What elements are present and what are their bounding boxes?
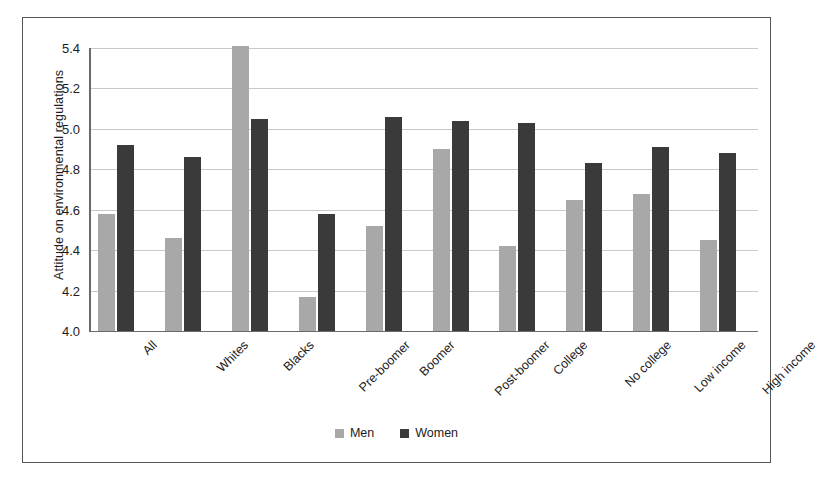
y-axis-tick-label: 5.4 xyxy=(62,41,80,56)
y-axis-tick-label: 4.2 xyxy=(62,283,80,298)
chart-legend: MenWomen xyxy=(23,426,770,440)
x-axis-category-label: No college xyxy=(622,338,674,390)
bar-men[interactable] xyxy=(98,214,115,331)
y-axis-tick-label: 4.8 xyxy=(62,162,80,177)
x-axis-category-label: All xyxy=(141,338,161,358)
y-axis-tick-label: 4.6 xyxy=(62,202,80,217)
bar-group: Blacks xyxy=(223,48,290,331)
bar-group: High income xyxy=(691,48,758,331)
bar-women[interactable] xyxy=(318,214,335,331)
bar-group: College xyxy=(490,48,557,331)
bar-group: Whites xyxy=(156,48,223,331)
x-axis-category-label: Boomer xyxy=(417,338,458,379)
bar-men[interactable] xyxy=(232,46,249,331)
legend-swatch-icon xyxy=(335,429,344,438)
bar-men[interactable] xyxy=(433,149,450,331)
x-axis-category-label: Post-boomer xyxy=(492,338,553,399)
plot-area: 5.45.25.04.84.64.44.24.0 AllWhitesBlacks… xyxy=(89,48,758,331)
bar-women[interactable] xyxy=(719,153,736,331)
chart-figure: Attitude on environmental regulations 5.… xyxy=(22,17,771,463)
bar-group: No college xyxy=(557,48,624,331)
x-axis-category-label: Pre-boomer xyxy=(356,338,413,395)
bar-group: Pre-boomer xyxy=(290,48,357,331)
y-axis-tick-label: 4.4 xyxy=(62,243,80,258)
x-axis-category-label: Whites xyxy=(215,338,252,375)
y-axis-tick-label: 5.2 xyxy=(62,81,80,96)
bar-women[interactable] xyxy=(452,121,469,331)
bar-women[interactable] xyxy=(518,123,535,331)
bar-women[interactable] xyxy=(585,163,602,331)
legend-item-men[interactable]: Men xyxy=(335,426,374,440)
bar-women[interactable] xyxy=(117,145,134,331)
y-axis-tick-label: 4.0 xyxy=(62,324,80,339)
legend-label: Men xyxy=(350,426,374,440)
y-axis-tick-label: 5.0 xyxy=(62,121,80,136)
x-axis-category-label: Low income xyxy=(691,338,748,395)
bar-group: All xyxy=(89,48,156,331)
x-axis-category-label: High income xyxy=(759,338,818,397)
bar-group: Low income xyxy=(624,48,691,331)
bar-women[interactable] xyxy=(385,117,402,331)
legend-swatch-icon xyxy=(400,429,409,438)
legend-label: Women xyxy=(415,426,458,440)
bar-group: Boomer xyxy=(357,48,424,331)
legend-item-women[interactable]: Women xyxy=(400,426,458,440)
bar-men[interactable] xyxy=(499,246,516,331)
bar-group: Post-boomer xyxy=(424,48,491,331)
bar-men[interactable] xyxy=(700,240,717,331)
bar-women[interactable] xyxy=(251,119,268,331)
bar-men[interactable] xyxy=(633,194,650,331)
bar-men[interactable] xyxy=(165,238,182,331)
bar-women[interactable] xyxy=(184,157,201,331)
bar-men[interactable] xyxy=(366,226,383,331)
bar-women[interactable] xyxy=(652,147,669,331)
x-axis-category-label: College xyxy=(550,338,590,378)
bar-men[interactable] xyxy=(566,200,583,331)
bar-men[interactable] xyxy=(299,297,316,331)
x-axis-category-label: Blacks xyxy=(281,338,317,374)
